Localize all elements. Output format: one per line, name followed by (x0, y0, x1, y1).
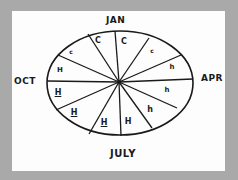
segment-label-underlined: H (101, 119, 108, 127)
segment-label: h (170, 64, 175, 71)
segment-label-underlined: H (71, 109, 78, 117)
segment-label: c (150, 48, 154, 54)
month-label-apr: APR (201, 74, 223, 83)
month-label-jan: JAN (106, 16, 125, 25)
segment-label-underlined: H (55, 89, 62, 97)
segment-label: C (121, 38, 127, 46)
segment-label: h (165, 87, 170, 94)
month-label-oct: OCT (14, 77, 36, 86)
month-label-july: JULY (110, 149, 136, 159)
segment-label: c (69, 49, 73, 55)
segment-label: H (125, 118, 132, 126)
segment-label: h (147, 106, 153, 114)
segment-label: H (57, 67, 63, 74)
segment-label: C (95, 37, 101, 45)
